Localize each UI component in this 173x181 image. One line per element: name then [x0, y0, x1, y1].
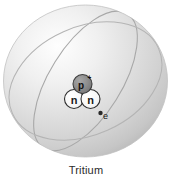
atom-diagram-svg: n n p + e Tritium: [0, 0, 173, 181]
figure-caption: Tritium: [69, 164, 104, 176]
proton-charge-symbol: +: [88, 74, 92, 81]
electron-label: e: [103, 111, 108, 121]
tritium-atom-figure: n n p + e Tritium: [0, 0, 173, 181]
neutron-left-label: n: [71, 94, 78, 106]
proton-label: p: [78, 80, 84, 91]
proton: p +: [73, 74, 92, 94]
neutron-right-label: n: [87, 94, 94, 106]
